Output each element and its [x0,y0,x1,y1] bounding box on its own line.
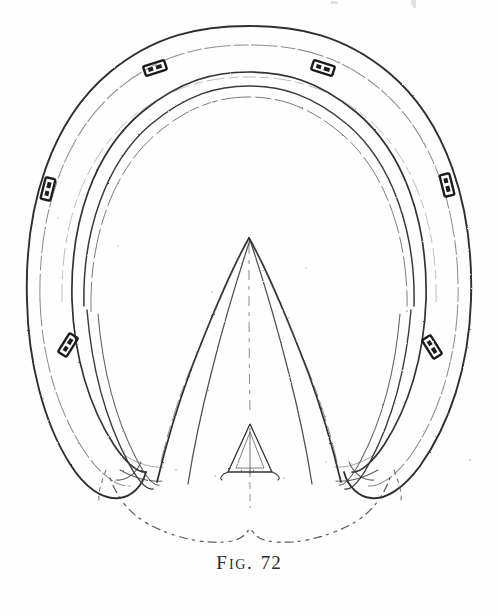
scan-speckles [57,119,471,479]
figure-plate: FIG.72 [0,0,498,616]
horseshoe-crease-line [40,45,458,486]
hoof-figure-illustration [0,0,498,616]
frog-point-triangle [221,424,279,480]
nail-heads [40,60,454,359]
top-text-remnant [331,1,338,4]
bars-of-hoof [87,310,411,489]
nail-toe-right [311,60,335,76]
top-text-remnant [413,5,416,8]
caption-figure-number: 72 [254,552,282,573]
nail-quarter-right [439,173,454,197]
caption-lead-letter: F [216,552,229,573]
figure-caption: FIG.72 [0,552,498,574]
caption-period: . [247,552,254,573]
nail-toe-left [143,60,167,76]
caption-small-caps: IG [229,557,247,572]
horseshoe-inner-crease-line [62,77,436,302]
nail-quarter-left [40,177,55,201]
nail-heel-left [58,333,78,357]
nail-heel-right [422,335,442,359]
